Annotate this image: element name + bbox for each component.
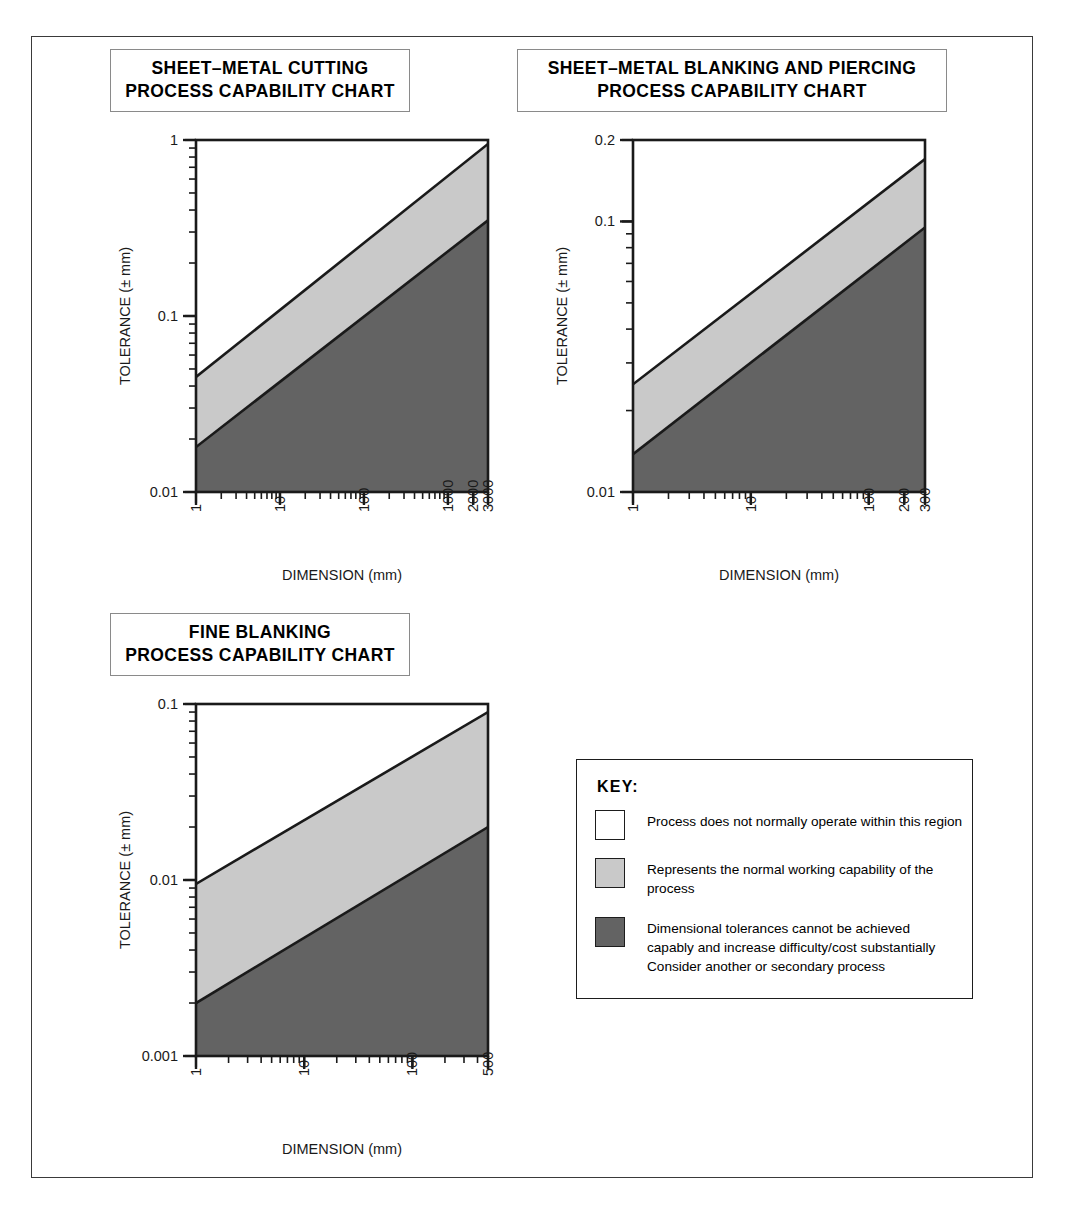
x-axis-title: DIMENSION (mm)	[719, 567, 839, 583]
key-line: capably and increase difficulty/cost sub…	[647, 938, 935, 957]
key-swatch-light	[595, 858, 625, 888]
x-axis-tick-label: 3000	[480, 480, 496, 512]
clipped-caption	[152, 25, 572, 37]
figure-border: SHEET–METAL CUTTING PROCESS CAPABILITY C…	[31, 36, 1033, 1178]
y-axis-tick-label: 0.01	[150, 872, 178, 888]
chart-sheet-metal-cutting: SHEET–METAL CUTTING PROCESS CAPABILITY C…	[110, 49, 510, 586]
y-axis-tick-label: 0.2	[595, 132, 615, 148]
key-line: Process does not normally operate within…	[647, 812, 962, 831]
x-axis-tick-label: 1000	[440, 480, 456, 512]
key-entry-text: Process does not normally operate within…	[647, 808, 962, 831]
chart-title-box-3: FINE BLANKING PROCESS CAPABILITY CHART	[110, 613, 410, 676]
x-axis-tick-label: 1	[188, 504, 204, 512]
key-swatch-white	[595, 810, 625, 840]
x-axis-tick-label: 100	[356, 488, 372, 512]
chart-title-box-2: SHEET–METAL BLANKING AND PIERCING PROCES…	[517, 49, 947, 112]
x-axis-title: DIMENSION (mm)	[282, 1141, 402, 1157]
chart-plot-area-1: 11010010002000300010.10.01TOLERANCE (± m…	[110, 126, 510, 586]
key-line: process	[647, 879, 933, 898]
x-axis-title: DIMENSION (mm)	[282, 567, 402, 583]
x-axis-tick-label: 500	[480, 1052, 496, 1076]
key-line: Consider another or secondary process	[647, 957, 935, 976]
key-entry-light: Represents the normal working capability…	[595, 856, 954, 899]
chart-svg: 1101005000.10.010.001TOLERANCE (± mm)DIM…	[110, 690, 510, 1160]
chart-title-box-1: SHEET–METAL CUTTING PROCESS CAPABILITY C…	[110, 49, 410, 112]
key-entry-text: Dimensional tolerances cannot be achieve…	[647, 915, 935, 977]
key-line: Represents the normal working capability…	[647, 860, 933, 879]
key-entry-text: Represents the normal working capability…	[647, 856, 933, 899]
x-axis-tick-label: 300	[917, 488, 933, 512]
chart-svg: 11010010002000300010.10.01TOLERANCE (± m…	[110, 126, 510, 586]
chart-title-line2: PROCESS CAPABILITY CHART	[528, 80, 936, 103]
chart-sheet-metal-blanking-piercing: SHEET–METAL BLANKING AND PIERCING PROCES…	[517, 49, 947, 586]
chart-title-line1: SHEET–METAL CUTTING	[121, 57, 399, 80]
y-axis-title: TOLERANCE (± mm)	[117, 811, 133, 949]
chart-title-line2: PROCESS CAPABILITY CHART	[121, 80, 399, 103]
x-axis-tick-label: 10	[296, 1060, 312, 1076]
y-axis-tick-label: 0.1	[158, 308, 178, 324]
key-entry-white: Process does not normally operate within…	[595, 808, 954, 840]
chart-title-line1: FINE BLANKING	[121, 621, 399, 644]
x-axis-tick-label: 200	[896, 488, 912, 512]
y-axis-tick-label: 0.1	[595, 214, 615, 230]
y-axis-title: TOLERANCE (± mm)	[117, 247, 133, 385]
y-axis-tick-label: 0.01	[150, 484, 178, 500]
key-legend-box: KEY: Process does not normally operate w…	[576, 759, 973, 999]
x-axis-tick-label: 1	[625, 504, 641, 512]
x-axis-tick-label: 10	[743, 496, 759, 512]
y-axis-tick-label: 1	[170, 132, 178, 148]
key-swatch-dark	[595, 917, 625, 947]
x-axis-tick-label: 10	[272, 496, 288, 512]
y-axis-tick-label: 0.001	[142, 1048, 178, 1064]
x-axis-tick-label: 2000	[465, 480, 481, 512]
chart-plot-area-3: 1101005000.10.010.001TOLERANCE (± mm)DIM…	[110, 690, 510, 1160]
chart-plot-area-2: 1101002003000.20.10.01TOLERANCE (± mm)DI…	[517, 126, 947, 586]
x-axis-tick-label: 100	[861, 488, 877, 512]
key-line: Dimensional tolerances cannot be achieve…	[647, 919, 935, 938]
y-axis-tick-label: 0.1	[158, 696, 178, 712]
key-entry-dark: Dimensional tolerances cannot be achieve…	[595, 915, 954, 977]
key-title: KEY:	[597, 778, 954, 796]
y-axis-title: TOLERANCE (± mm)	[554, 247, 570, 385]
x-axis-tick-label: 100	[404, 1052, 420, 1076]
y-axis-tick-label: 0.01	[587, 484, 615, 500]
chart-fine-blanking: FINE BLANKING PROCESS CAPABILITY CHART 1…	[110, 613, 510, 1160]
chart-title-line1: SHEET–METAL BLANKING AND PIERCING	[528, 57, 936, 80]
chart-svg: 1101002003000.20.10.01TOLERANCE (± mm)DI…	[517, 126, 947, 586]
chart-title-line2: PROCESS CAPABILITY CHART	[121, 644, 399, 667]
x-axis-tick-label: 1	[188, 1068, 204, 1076]
